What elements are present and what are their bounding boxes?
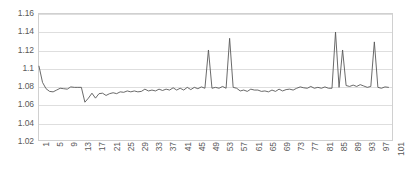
x-axis-tick-label: 97 (382, 142, 391, 151)
x-axis-tick-label: 61 (255, 142, 264, 151)
y-axis-tick-label: 1.1 (0, 64, 34, 73)
y-axis-tick-label: 1.06 (0, 100, 34, 109)
x-axis-tick-label: 89 (354, 142, 363, 151)
x-axis-tick-label: 37 (169, 142, 178, 151)
y-axis-tick-label: 1.14 (0, 27, 34, 36)
x-axis-tick-label: 53 (226, 142, 235, 151)
x-axis-tick-label: 85 (340, 142, 349, 151)
x-axis-tick-label: 5 (56, 142, 65, 147)
x-axis-tick-label: 81 (326, 142, 335, 151)
x-axis-tick-label: 65 (269, 142, 278, 151)
y-axis: 1.021.041.061.081.11.121.141.16 (0, 13, 34, 141)
x-axis-tick-label: 13 (84, 142, 93, 151)
x-axis-tick-label: 49 (212, 142, 221, 151)
x-axis: 1591317212529333741454953576165697377818… (38, 142, 393, 186)
x-axis-tick-label: 73 (297, 142, 306, 151)
x-axis-tick-label: 77 (311, 142, 320, 151)
x-axis-tick-label: 33 (155, 142, 164, 151)
y-axis-tick-label: 1.08 (0, 82, 34, 91)
y-axis-tick-label: 1.02 (0, 137, 34, 146)
x-axis-tick-label: 21 (113, 142, 122, 151)
x-axis-tick-label: 29 (141, 142, 150, 151)
x-axis-tick-label: 93 (368, 142, 377, 151)
x-axis-tick-label: 1 (42, 142, 51, 147)
x-axis-tick-label: 17 (98, 142, 107, 151)
x-axis-tick-label: 69 (283, 142, 292, 151)
y-axis-tick-label: 1.16 (0, 9, 34, 18)
series-line-1 (39, 14, 392, 140)
x-axis-tick-label: 57 (240, 142, 249, 151)
x-axis-tick-label: 101 (397, 142, 406, 156)
x-axis-tick-label: 25 (127, 142, 136, 151)
plot-area (38, 13, 393, 141)
x-axis-tick-label: 41 (184, 142, 193, 151)
y-axis-tick-label: 1.04 (0, 118, 34, 127)
y-axis-tick-label: 1.12 (0, 45, 34, 54)
x-axis-tick-label: 45 (198, 142, 207, 151)
x-axis-tick-label: 9 (70, 142, 79, 147)
